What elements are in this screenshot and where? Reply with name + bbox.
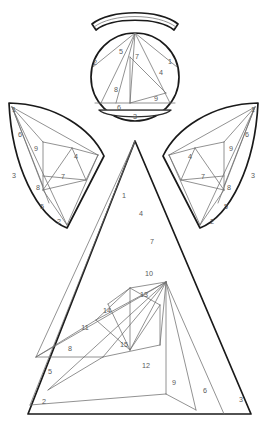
body-number: 15 [120, 340, 128, 349]
right-wing-number: 1 [251, 105, 255, 114]
left-wing-number: 2 [57, 217, 61, 226]
left-wing-number: 9 [34, 144, 38, 153]
body-number: 12 [142, 361, 150, 370]
left-wing-number: 5 [40, 202, 44, 211]
head-number: 5 [119, 47, 123, 56]
pattern-canvas: 1 2 3 4 5 6 7 8 9 1 2 3 4 5 6 7 8 9 1 2 … [0, 0, 270, 424]
left-wing-number: 4 [74, 152, 78, 161]
angel-pattern-drawing: 1 2 3 4 5 6 7 8 9 1 2 3 4 5 6 7 8 9 1 2 … [0, 0, 270, 424]
body-number: 6 [203, 386, 207, 395]
body-number: 5 [48, 367, 52, 376]
body-number: 8 [68, 344, 72, 353]
left-wing-number: 1 [12, 105, 16, 114]
body-number: 1 [122, 191, 126, 200]
right-wing-number: 9 [229, 144, 233, 153]
left-wing-number: 7 [61, 172, 65, 181]
body-number: 10 [145, 269, 153, 278]
left-wing-number: 6 [18, 130, 22, 139]
right-wing-group [163, 103, 258, 228]
head-outline [91, 33, 179, 121]
head-number: 3 [133, 112, 137, 121]
right-wing-number: 4 [188, 152, 192, 161]
halo-group [92, 13, 178, 30]
right-wing-number: 7 [201, 172, 205, 181]
body-number: 14 [103, 306, 111, 315]
right-wing-number: 5 [224, 202, 228, 211]
right-wing-number: 6 [245, 130, 249, 139]
head-number: 2 [93, 58, 97, 67]
head-number: 6 [117, 103, 121, 112]
right-wing-number: 8 [227, 183, 231, 192]
right-wing-number: 3 [251, 171, 255, 180]
body-number: 4 [139, 209, 143, 218]
head-group [91, 33, 179, 121]
right-wing-number: 2 [210, 217, 214, 226]
left-wing-group [9, 103, 104, 228]
body-number: 11 [81, 323, 88, 332]
head-number: 8 [114, 85, 118, 94]
body-number: 3 [239, 395, 243, 404]
body-number: 9 [172, 378, 176, 387]
body-number: 2 [42, 397, 46, 406]
left-wing-number: 3 [12, 171, 16, 180]
head-number: 1 [168, 57, 172, 66]
left-wing-number: 8 [36, 183, 40, 192]
body-number: 7 [150, 237, 154, 246]
head-number: 9 [154, 94, 158, 103]
head-number: 4 [159, 68, 163, 77]
body-number: 13 [140, 290, 148, 299]
head-number: 7 [135, 52, 139, 61]
